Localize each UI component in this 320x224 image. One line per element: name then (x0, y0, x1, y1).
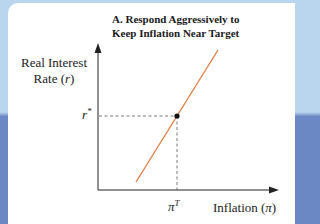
chart-plot (0, 0, 295, 224)
y-axis-arrow-icon (95, 43, 102, 53)
x-axis-arrow-icon (269, 187, 279, 194)
target-point (174, 113, 179, 118)
